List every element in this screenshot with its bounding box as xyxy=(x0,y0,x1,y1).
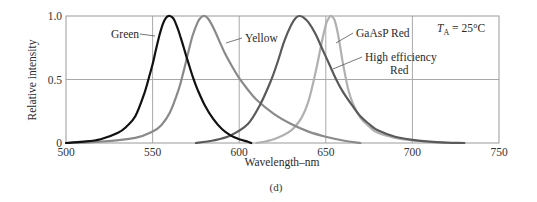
x-tick-label: 550 xyxy=(144,146,162,158)
x-tick-label: 700 xyxy=(404,146,422,158)
legend-label-green: Green xyxy=(111,28,139,40)
figure-caption: (d) xyxy=(270,181,283,194)
legend-label-yellow: Yellow xyxy=(245,32,278,44)
y-tick-label: 0 xyxy=(56,137,62,149)
legend-label-he-red-line2: Red xyxy=(390,64,409,76)
y-tick-label: 0.5 xyxy=(48,74,63,86)
leader-line xyxy=(333,57,362,69)
legend-label-gaasp-red: GaAsP Red xyxy=(356,27,410,39)
led-spectrum-chart: 500550600650700750 00.51.0 Relative inte… xyxy=(0,0,537,202)
y-axis-label: Relative intensity xyxy=(26,39,39,120)
temperature-annotation: TA = 25°C xyxy=(437,22,486,37)
y-tick-labels: 00.51.0 xyxy=(48,10,63,149)
legend-label-he-red-line1: High efficiency xyxy=(365,51,437,64)
x-tick-label: 650 xyxy=(317,146,335,158)
x-tick-label: 750 xyxy=(490,146,508,158)
y-tick-label: 1.0 xyxy=(48,10,63,22)
x-axis-label: Wavelength–nm xyxy=(244,156,319,169)
